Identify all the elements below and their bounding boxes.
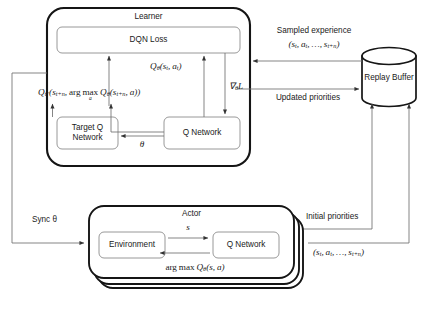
learner-title: Learner xyxy=(47,12,250,21)
environment-box xyxy=(99,232,165,258)
sampled-experience-tuple: (st, at, …, st+n) xyxy=(258,39,370,50)
sync-theta-label: Sync θ xyxy=(32,215,57,224)
action-selection-label: arg max Qθ(s, a) xyxy=(120,262,270,273)
q-online-value-label: Qθ(st, at) xyxy=(150,61,182,72)
diagram-canvas: Learner DQN Loss Target Q Network Q Netw… xyxy=(0,0,441,309)
target-q-network-box xyxy=(57,117,118,149)
actor-experience-tuple: (st, at, …, st+n) xyxy=(313,247,364,258)
updated-priorities-label: Updated priorities xyxy=(254,93,362,102)
initial-priorities-label: Initial priorities xyxy=(306,212,358,221)
q-target-value-label: Qθ′(st+n, arg maxa Qθ(st+n, a)) xyxy=(38,87,140,101)
sampled-experience-label: Sampled experience xyxy=(258,26,370,35)
edge-actor-experience-to-buffer xyxy=(308,104,409,243)
actor-title: Actor xyxy=(89,209,294,218)
state-label: s xyxy=(168,222,208,233)
actor-q-network-box xyxy=(213,232,279,258)
learner-q-network-box xyxy=(164,117,240,149)
edge-initial-priorities xyxy=(303,104,372,229)
dqn-loss-box xyxy=(57,27,240,53)
gradient-label: ∇θL xyxy=(229,81,243,92)
replay-buffer-label: Replay Buffer xyxy=(359,73,419,82)
theta-sync-label: θ xyxy=(123,139,161,150)
